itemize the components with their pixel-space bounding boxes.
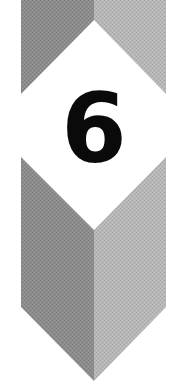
chevron-graphic bbox=[0, 0, 180, 392]
chapter-badge: 6 bbox=[0, 0, 180, 392]
bottom-chevron-left-face bbox=[21, 157, 94, 381]
chapter-number: 6 bbox=[2, 84, 180, 174]
bottom-chevron-right-face bbox=[94, 157, 166, 381]
